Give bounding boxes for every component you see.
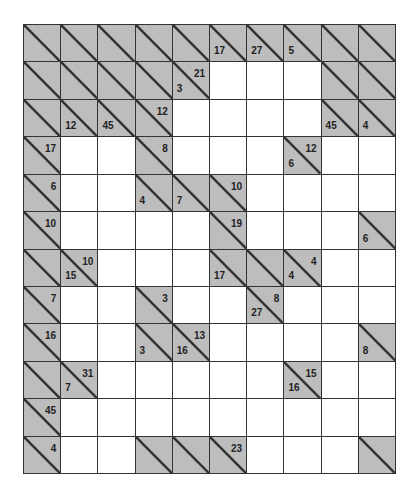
entry-cell[interactable] [136, 399, 172, 435]
entry-cell[interactable] [322, 212, 358, 248]
clue-cell: 45 [98, 100, 134, 136]
down-clue: 4 [363, 120, 369, 131]
entry-cell[interactable] [359, 175, 395, 211]
entry-cell[interactable] [173, 212, 209, 248]
entry-cell[interactable] [61, 212, 97, 248]
entry-cell[interactable] [98, 324, 134, 360]
entry-cell[interactable] [284, 100, 320, 136]
entry-cell[interactable] [98, 175, 134, 211]
diagonal-divider [61, 62, 97, 98]
across-clue: 13 [194, 330, 205, 341]
clue-cell: 10 [210, 175, 246, 211]
entry-cell[interactable] [61, 175, 97, 211]
entry-cell[interactable] [98, 137, 134, 173]
diagonal-divider [359, 62, 395, 98]
across-clue: 15 [305, 368, 316, 379]
entry-cell[interactable] [322, 324, 358, 360]
entry-cell[interactable] [359, 250, 395, 286]
entry-cell[interactable] [210, 362, 246, 398]
clue-cell: 16 [24, 324, 60, 360]
across-clue: 23 [231, 443, 242, 454]
entry-cell[interactable] [322, 399, 358, 435]
entry-cell[interactable] [98, 212, 134, 248]
entry-cell[interactable] [247, 324, 283, 360]
entry-cell[interactable] [247, 100, 283, 136]
clue-cell: 27 [247, 25, 283, 61]
entry-cell[interactable] [359, 137, 395, 173]
entry-cell[interactable] [173, 100, 209, 136]
across-clue: 8 [162, 143, 168, 154]
entry-cell[interactable] [247, 137, 283, 173]
entry-cell[interactable] [359, 287, 395, 323]
entry-cell[interactable] [322, 287, 358, 323]
entry-cell[interactable] [247, 62, 283, 98]
entry-cell[interactable] [210, 137, 246, 173]
diagonal-line [359, 62, 395, 98]
entry-cell[interactable] [247, 362, 283, 398]
clue-cell [136, 437, 172, 473]
entry-cell[interactable] [359, 399, 395, 435]
entry-cell[interactable] [210, 62, 246, 98]
clue-cell [61, 25, 97, 61]
clue-cell: 44 [284, 250, 320, 286]
entry-cell[interactable] [173, 137, 209, 173]
entry-cell[interactable] [210, 287, 246, 323]
entry-cell[interactable] [284, 175, 320, 211]
entry-cell[interactable] [284, 212, 320, 248]
entry-cell[interactable] [173, 399, 209, 435]
clue-cell: 17 [210, 250, 246, 286]
entry-cell[interactable] [322, 175, 358, 211]
entry-cell[interactable] [98, 250, 134, 286]
entry-cell[interactable] [98, 362, 134, 398]
across-clue: 16 [45, 330, 56, 341]
entry-cell[interactable] [284, 324, 320, 360]
entry-cell[interactable] [61, 324, 97, 360]
clue-cell [322, 25, 358, 61]
entry-cell[interactable] [247, 212, 283, 248]
entry-cell[interactable] [98, 437, 134, 473]
entry-cell[interactable] [61, 287, 97, 323]
entry-cell[interactable] [98, 399, 134, 435]
clue-cell [24, 100, 60, 136]
diagonal-line [24, 62, 60, 98]
entry-cell[interactable] [210, 100, 246, 136]
down-clue: 27 [251, 45, 262, 56]
clue-cell: 7 [173, 175, 209, 211]
entry-cell[interactable] [284, 437, 320, 473]
clue-cell [98, 62, 134, 98]
entry-cell[interactable] [173, 362, 209, 398]
entry-cell[interactable] [210, 399, 246, 435]
entry-cell[interactable] [136, 362, 172, 398]
diagonal-line [136, 437, 172, 473]
entry-cell[interactable] [322, 250, 358, 286]
diagonal-line [173, 437, 209, 473]
entry-cell[interactable] [284, 287, 320, 323]
down-clue: 6 [288, 158, 294, 169]
entry-cell[interactable] [136, 212, 172, 248]
entry-cell[interactable] [247, 399, 283, 435]
entry-cell[interactable] [61, 137, 97, 173]
entry-cell[interactable] [136, 250, 172, 286]
across-clue: 19 [231, 218, 242, 229]
entry-cell[interactable] [247, 175, 283, 211]
across-clue: 4 [51, 443, 57, 454]
down-clue: 7 [177, 195, 183, 206]
clue-cell [24, 25, 60, 61]
entry-cell[interactable] [247, 437, 283, 473]
entry-cell[interactable] [98, 287, 134, 323]
entry-cell[interactable] [322, 362, 358, 398]
entry-cell[interactable] [61, 437, 97, 473]
down-clue: 3 [140, 345, 146, 356]
across-clue: 4 [311, 256, 317, 267]
entry-cell[interactable] [322, 137, 358, 173]
entry-cell[interactable] [61, 399, 97, 435]
entry-cell[interactable] [359, 362, 395, 398]
entry-cell[interactable] [210, 324, 246, 360]
entry-cell[interactable] [284, 399, 320, 435]
entry-cell[interactable] [173, 250, 209, 286]
entry-cell[interactable] [322, 437, 358, 473]
entry-cell[interactable] [284, 62, 320, 98]
entry-cell[interactable] [173, 287, 209, 323]
clue-cell [359, 437, 395, 473]
down-clue: 12 [65, 120, 76, 131]
